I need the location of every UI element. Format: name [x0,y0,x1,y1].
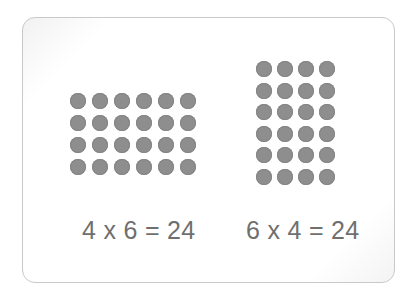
dot [70,159,86,175]
dot [114,93,130,109]
dot [256,104,272,120]
dot [319,61,335,77]
dot [298,104,314,120]
dot-array-4x6 [70,93,196,175]
dot-array-6x4 [256,61,335,185]
dot [256,61,272,77]
dot [180,137,196,153]
dot [158,159,174,175]
dot [319,147,335,163]
dot [319,104,335,120]
dot [92,159,108,175]
dot [277,83,293,99]
equation-left: 4 x 6 = 24 [82,216,196,245]
dot [277,61,293,77]
dot [92,93,108,109]
dot [277,126,293,142]
dot [277,169,293,185]
dot [298,61,314,77]
dot [70,115,86,131]
dot [319,126,335,142]
dot [180,115,196,131]
dot [256,126,272,142]
dot [70,93,86,109]
dot [319,83,335,99]
dot [114,137,130,153]
dot [70,137,86,153]
dot [114,159,130,175]
dot [136,93,152,109]
dot [136,115,152,131]
dot [136,159,152,175]
dot [158,93,174,109]
dot [277,104,293,120]
dot [256,83,272,99]
dot [277,147,293,163]
dot [114,115,130,131]
dot [256,147,272,163]
dot [298,169,314,185]
dot [180,93,196,109]
dot [92,137,108,153]
dot [256,169,272,185]
dot [298,126,314,142]
dot [92,115,108,131]
dot [298,147,314,163]
equation-right: 6 x 4 = 24 [246,216,360,245]
dot [158,137,174,153]
dot [136,137,152,153]
dot [298,83,314,99]
dot [158,115,174,131]
dot [180,159,196,175]
dot [319,169,335,185]
